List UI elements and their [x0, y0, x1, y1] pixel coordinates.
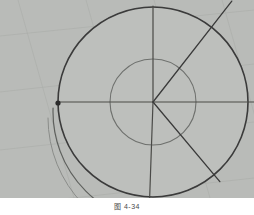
diagram-canvas — [0, 0, 254, 198]
marked-points — [55, 100, 60, 105]
figure-container: 图 4-34 — [0, 0, 254, 215]
left-tangent-point — [55, 100, 60, 105]
figure-caption-bar: 图 4-34 — [0, 198, 254, 215]
geometry-drawing — [0, 0, 254, 198]
figure-caption: 图 4-34 — [114, 202, 140, 211]
